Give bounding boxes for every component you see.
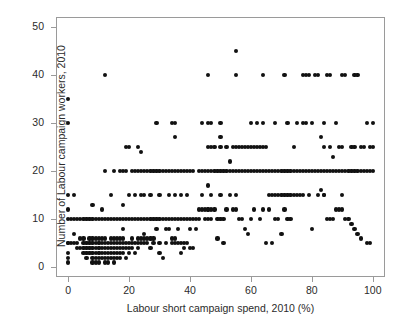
x-axis-tick-label: 60 <box>236 285 266 296</box>
clipped-caption-remnant <box>6 0 186 9</box>
x-axis-tick-mark <box>68 277 69 282</box>
y-axis-tick-label: 20 <box>20 165 44 176</box>
x-axis-tick-mark <box>251 277 252 282</box>
x-axis-tick-mark <box>373 277 374 282</box>
y-axis-tick-label: 50 <box>20 21 44 32</box>
x-axis-tick-label: 20 <box>114 285 144 296</box>
x-axis-tick-label: 40 <box>175 285 205 296</box>
y-axis-tick-label: 40 <box>20 69 44 80</box>
x-axis-tick-mark <box>190 277 191 282</box>
y-axis-tick-label: 30 <box>20 117 44 128</box>
y-axis-tick-label: 0 <box>20 261 44 272</box>
y-axis-tick-label: 10 <box>20 213 44 224</box>
plot-area-frame <box>56 17 385 277</box>
x-axis-tick-label: 80 <box>297 285 327 296</box>
scatter-plot-figure: 01020304050 020406080100 Labour short ca… <box>0 0 403 328</box>
x-axis-tick-label: 100 <box>358 285 388 296</box>
x-axis-title: Labour short campaign spend, 2010 (%) <box>56 302 385 314</box>
x-axis-tick-mark <box>312 277 313 282</box>
y-axis-title: Number of Labour campaign workers, 2010 <box>55 16 67 276</box>
x-axis-tick-label: 0 <box>53 285 83 296</box>
x-axis-tick-mark <box>129 277 130 282</box>
